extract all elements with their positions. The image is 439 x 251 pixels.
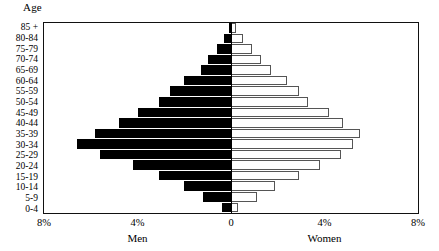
bar-men-2024	[133, 160, 231, 170]
y-axis-label-2024: 20-24	[0, 161, 40, 172]
bar-men-5054	[159, 97, 231, 107]
x-axis-tick-2: 0	[228, 216, 233, 229]
bar-women-1519	[231, 171, 299, 181]
y-axis-label-3034: 30-34	[0, 139, 40, 150]
bar-women-6064	[231, 76, 287, 86]
y-axis-label-6064: 60-64	[0, 75, 40, 86]
series-label-women: Women	[308, 231, 342, 245]
y-axis-label-4549: 45-49	[0, 107, 40, 118]
bar-women-5559	[231, 86, 299, 96]
bar-men-4549	[138, 108, 232, 118]
population-pyramid-chart: Age 85 +80-8475-7970-7465-6960-6455-5950…	[0, 0, 439, 251]
bar-men-7074	[208, 55, 231, 65]
bar-women-59	[231, 192, 257, 202]
bar-men-5559	[170, 86, 231, 96]
bar-men-1014	[184, 181, 231, 191]
bar-women-4044	[231, 118, 343, 128]
bar-men-59	[203, 192, 231, 202]
bar-women-5054	[231, 97, 308, 107]
bar-men-1519	[159, 171, 231, 181]
bar-women-04	[231, 203, 238, 213]
y-axis-title: Age	[23, 1, 42, 13]
bar-men-4044	[119, 118, 231, 128]
bar-women-7074	[231, 55, 261, 65]
series-label-men: Men	[127, 231, 147, 245]
bar-men-04	[222, 203, 231, 213]
x-axis-tick-1: 4%	[131, 216, 145, 229]
y-axis-label-5559: 55-59	[0, 86, 40, 97]
x-axis-tick-0: 8%	[37, 216, 51, 229]
y-axis-tick-labels: 85 +80-8475-7970-7465-6960-6455-5950-544…	[0, 22, 40, 214]
bar-women-6569	[231, 65, 271, 75]
x-axis-tick-4: 8%	[411, 216, 425, 229]
y-axis-label-6569: 65-69	[0, 65, 40, 76]
plot-area	[43, 22, 419, 214]
x-axis-tick-3: 4%	[318, 216, 332, 229]
bar-men-3034	[77, 139, 231, 149]
bar-women-4549	[231, 108, 329, 118]
y-axis-label-7579: 75-79	[0, 43, 40, 54]
bar-men-8084	[224, 34, 231, 44]
y-axis-label-4044: 40-44	[0, 118, 40, 129]
y-axis-label-59: 5-9	[0, 193, 40, 204]
y-axis-label-3539: 35-39	[0, 129, 40, 140]
y-axis-label-1519: 15-19	[0, 171, 40, 182]
bar-women-8084	[231, 34, 243, 44]
bars-container	[44, 23, 418, 213]
bar-women-1014	[231, 181, 275, 191]
bar-men-2529	[100, 150, 231, 160]
bar-women-3539	[231, 129, 360, 139]
bar-women-2529	[231, 150, 341, 160]
y-axis-label-7074: 70-74	[0, 54, 40, 65]
bar-men-6569	[201, 65, 231, 75]
bar-women-2024	[231, 160, 320, 170]
bar-women-7579	[231, 44, 252, 54]
y-axis-label-1014: 10-14	[0, 182, 40, 193]
y-axis-label-8084: 80-84	[0, 33, 40, 44]
y-axis-label-04: 0-4	[0, 203, 40, 214]
center-axis-line	[231, 23, 232, 213]
bar-women-3034	[231, 139, 353, 149]
series-labels: MenWomen	[0, 231, 439, 247]
y-axis-label-85: 85 +	[0, 22, 40, 33]
bar-men-6064	[184, 76, 231, 86]
x-axis-tick-labels: 8%4%04%8%	[0, 216, 439, 232]
bar-men-7579	[217, 44, 231, 54]
bar-men-3539	[95, 129, 231, 139]
y-axis-label-5054: 50-54	[0, 97, 40, 108]
y-axis-label-2529: 25-29	[0, 150, 40, 161]
